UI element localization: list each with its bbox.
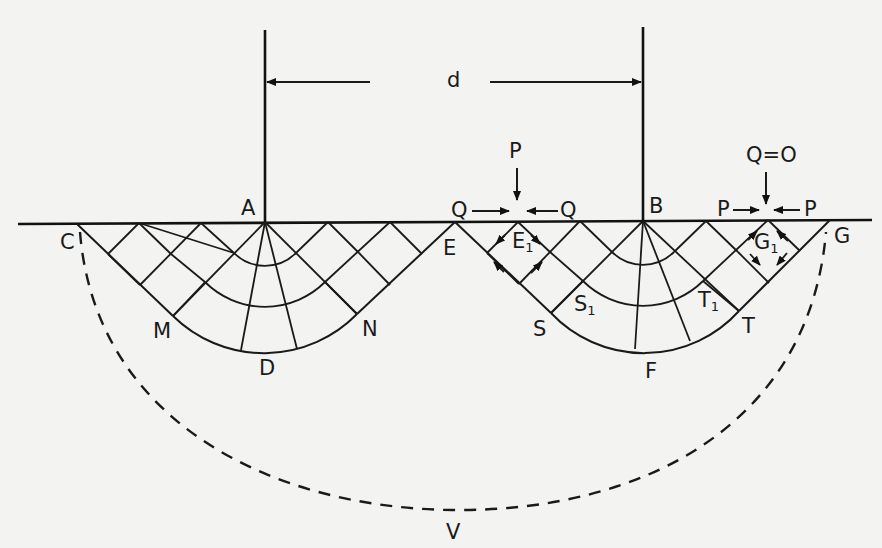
point-label-d: D: [259, 358, 275, 379]
slip-line-field-diagram: d A B C D E F G M N S T V E1 S1 T1 G1 P …: [0, 0, 882, 548]
point-label-f: F: [645, 361, 657, 382]
point-label-b: B: [649, 196, 663, 217]
point-label-v: V: [446, 522, 460, 543]
point-label-e: E: [443, 238, 456, 259]
point-label-g: G: [834, 226, 850, 247]
force-label-q-right: Q: [560, 200, 577, 221]
point-label-e1: E1: [512, 231, 534, 254]
force-label-p-right: P: [804, 199, 817, 220]
point-label-t: T: [742, 316, 755, 337]
point-label-m: M: [153, 321, 171, 342]
point-label-s1: S1: [574, 294, 596, 317]
ground-surface-line: [18, 220, 872, 224]
point-label-t1: T1: [698, 290, 719, 313]
point-label-g1: G1: [754, 232, 779, 255]
left-slip-field: [77, 222, 455, 353]
dimension-label-d: d: [447, 70, 460, 91]
point-label-c: C: [60, 232, 75, 253]
point-label-n: N: [362, 319, 378, 340]
diagram-lines: [0, 0, 882, 548]
point-label-s: S: [533, 319, 546, 340]
force-label-q-zero: Q=O: [746, 145, 797, 166]
force-label-p-vertical: P: [509, 141, 522, 162]
force-label-q-left: Q: [451, 200, 468, 221]
force-label-p-left: P: [717, 199, 730, 220]
point-label-a: A: [241, 198, 255, 219]
dashed-failure-surface: [80, 232, 826, 510]
